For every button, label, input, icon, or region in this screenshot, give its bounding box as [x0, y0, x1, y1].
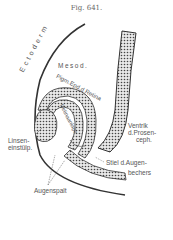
lens-vesicle: [34, 110, 57, 142]
label-lens-1: Linsen-: [8, 137, 29, 144]
label-ventricle-2: d.Prosen-: [128, 129, 156, 136]
label-ventricle-1: Ventrik: [128, 122, 148, 129]
label-lens-2: einstülp.: [8, 144, 32, 151]
label-optic-fissure: Augenspalt: [34, 187, 67, 194]
label-stalk-1: Stiel d.Augen-: [106, 159, 147, 166]
label-stalk-2: bechers: [128, 169, 151, 176]
label-ventricle-3: ceph.: [136, 136, 152, 143]
label-mesoderm: Mesod.: [58, 62, 88, 69]
